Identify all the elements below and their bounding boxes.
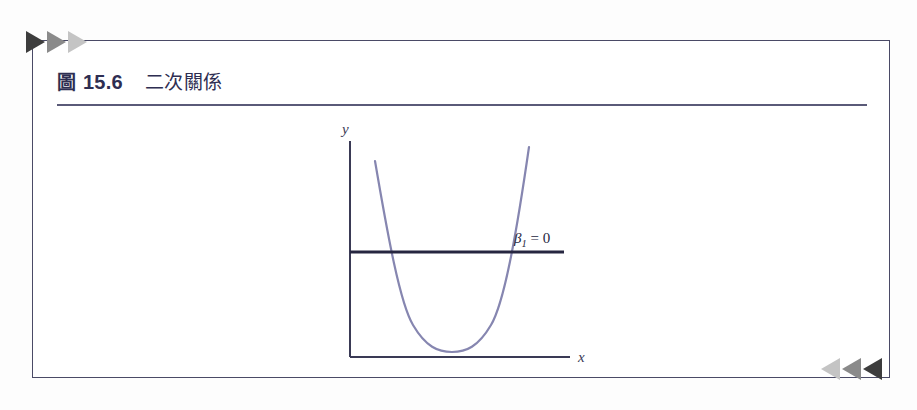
top-left-arrow-decoration [26,31,89,53]
triangle-right-light-icon [68,31,87,53]
y-axis-label: y [340,121,349,137]
triangle-right-dark-icon [26,31,45,53]
figure-frame: 圖 15.6 二次關係 y x [32,40,890,378]
figure-tag-label: 圖 [57,67,76,94]
page-root: 圖 15.6 二次關係 y x [0,0,917,410]
x-axis-label: x [577,349,585,365]
triangle-right-medium-icon [47,31,66,53]
triangle-left-medium-icon [842,358,861,380]
quadratic-curve [375,147,529,352]
figure-title: 圖 15.6 二次關係 [57,67,223,94]
beta-one-annotation: β1 = 0 [513,230,550,249]
triangle-left-light-icon [821,358,840,380]
triangle-left-dark-icon [863,358,882,380]
title-divider [57,104,867,106]
figure-number-label: 15.6 [83,71,123,94]
quadratic-relationship-chart: y x β1 = 0 [288,119,618,369]
beta-equation-tail: = 0 [527,230,550,246]
chart-svg: y x β1 = 0 [288,119,618,369]
bottom-right-arrow-decoration [821,358,884,380]
figure-caption-label: 二次關係 [145,67,223,94]
